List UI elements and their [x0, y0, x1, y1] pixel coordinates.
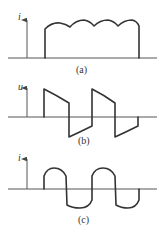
y-axis-label-c: i	[18, 152, 21, 163]
current-waveform-a	[45, 20, 139, 58]
current-waveform-c	[44, 168, 139, 208]
caption-b: (b)	[78, 135, 90, 147]
caption-c: (c)	[78, 214, 89, 226]
caption-a: (a)	[76, 64, 87, 76]
panel-a: i (a)	[8, 11, 157, 76]
panel-c: i (c)	[8, 152, 157, 226]
y-axis-label-b: u	[18, 81, 23, 92]
y-axis-label-a: i	[18, 11, 21, 22]
panel-b: u (b)	[8, 81, 157, 147]
waveform-figure: i (a) u (b) i (c)	[0, 0, 165, 234]
voltage-waveform-b	[44, 89, 138, 137]
